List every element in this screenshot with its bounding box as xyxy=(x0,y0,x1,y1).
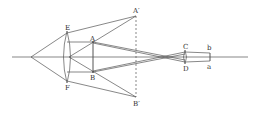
ray-f-to-b-prime xyxy=(67,81,136,97)
ray-e-to-a-prime xyxy=(67,16,136,33)
label-e: E xyxy=(65,24,70,32)
optics-diagram: A′ B′ E F A B C D b a xyxy=(0,0,261,115)
ray-center-to-b-prime xyxy=(69,57,136,97)
ray-source-to-f xyxy=(31,57,67,81)
point-b xyxy=(92,71,94,73)
label-b: B xyxy=(90,74,95,82)
ray-c-to-b xyxy=(185,52,210,53)
ray-b-to-c-2 xyxy=(93,52,185,71)
label-d: D xyxy=(183,65,189,73)
label-a: A xyxy=(89,35,96,43)
label-b-prime: B′ xyxy=(133,100,140,108)
ray-center-to-a-prime xyxy=(69,16,136,57)
ray-a-to-d-2 xyxy=(93,43,185,62)
ray-source-to-e xyxy=(31,33,67,57)
label-a-prime: A′ xyxy=(132,7,140,15)
label-a-small: a xyxy=(207,63,211,71)
label-c: C xyxy=(183,43,188,51)
label-f: F xyxy=(65,84,70,92)
ray-d-to-a xyxy=(185,61,210,62)
label-b-small: b xyxy=(207,44,212,52)
ray-diagram-svg: A′ B′ E F A B C D b a xyxy=(0,0,261,115)
